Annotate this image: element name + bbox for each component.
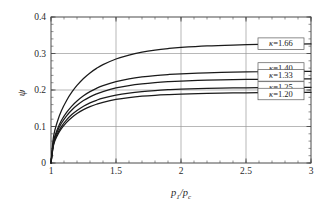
y-tick-label: 0.3: [34, 49, 46, 59]
x-tick-label: 3: [309, 166, 314, 176]
kappa-value: =1.33: [273, 70, 293, 80]
y-tick-label: 0.1: [34, 122, 46, 132]
y-tick-label: 0.4: [34, 12, 46, 22]
x-tick-label: 2.5: [240, 166, 252, 176]
psi-vs-pressure-ratio-chart: 11.522.53 00.10.20.30.4 κ=1.66κ=1.40κ=1.…: [0, 0, 325, 207]
legend-label: κ=1.66: [269, 38, 293, 48]
legend-label: κ=1.33: [269, 70, 293, 80]
kappa-value: =1.66: [273, 38, 293, 48]
legend-box-1.20: κ=1.20: [258, 88, 304, 100]
legend-box-1.66: κ=1.66: [258, 38, 304, 50]
legend-label: κ=1.20: [269, 89, 293, 99]
x-tick-label: 1: [49, 166, 54, 176]
x-tick-label: 1.5: [110, 166, 122, 176]
chart-figure: 11.522.53 00.10.20.30.4 κ=1.66κ=1.40κ=1.…: [0, 0, 325, 207]
kappa-value: =1.20: [273, 89, 293, 99]
y-tick-label: 0: [41, 158, 46, 168]
y-axis-title: ψ: [16, 89, 27, 96]
legend-box-1.33: κ=1.33: [258, 70, 304, 82]
legend-boxes: κ=1.66κ=1.40κ=1.33κ=1.25κ=1.20: [258, 38, 304, 100]
y-tick-label: 0.2: [34, 85, 46, 95]
x-tick-label: 2: [179, 166, 184, 176]
